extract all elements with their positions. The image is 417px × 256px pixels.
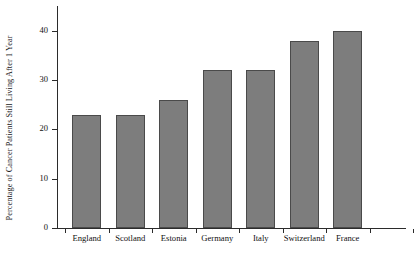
y-axis-tick-label: 30 — [16, 75, 48, 85]
bar — [203, 70, 232, 228]
y-axis-tick-label-text: 40 — [20, 26, 48, 35]
x-axis-tick — [109, 229, 110, 233]
bar — [290, 41, 319, 228]
x-axis-category-label: France — [336, 234, 359, 243]
y-axis-tick-label-text: 20 — [20, 124, 48, 133]
y-axis-tick-label: 10 — [16, 174, 48, 184]
x-axis-category-label: Italy — [253, 234, 269, 243]
bar — [246, 70, 275, 228]
x-axis-tick — [370, 229, 371, 233]
bar-chart: Percentage of Cancer Patients Still Livi… — [0, 0, 417, 256]
y-axis-tick-label-text: 30 — [20, 75, 48, 84]
y-axis-tick-label: 20 — [16, 124, 48, 134]
bar — [333, 31, 362, 228]
y-axis-tick-label-text: 0 — [20, 223, 48, 232]
y-axis-tick-label-text: 10 — [20, 174, 48, 183]
x-axis-category-label: Switzerland — [284, 234, 325, 243]
plot-area — [57, 6, 405, 228]
x-axis-category-label: Estonia — [161, 234, 187, 243]
bar — [72, 115, 101, 228]
x-axis-tick — [239, 229, 240, 233]
x-axis-category-label: Scotland — [115, 234, 145, 243]
x-axis-tick — [65, 229, 66, 233]
x-axis-tick — [196, 229, 197, 233]
x-axis-category-label: Germany — [201, 234, 233, 243]
bar — [116, 115, 145, 228]
y-axis-tick — [52, 228, 58, 229]
x-axis-category-label: England — [72, 234, 101, 243]
x-axis-tick — [326, 229, 327, 233]
y-axis-tick-label: 40 — [16, 26, 48, 36]
y-axis-tick-label: 0 — [16, 223, 48, 233]
x-axis-tick — [413, 229, 414, 233]
x-axis-tick — [152, 229, 153, 233]
bar — [159, 100, 188, 228]
